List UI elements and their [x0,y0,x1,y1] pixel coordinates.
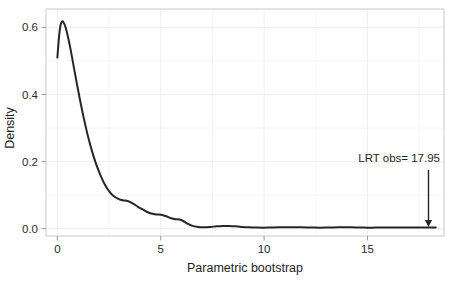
x-axis-tick-labels: 051015 [54,243,374,255]
plot-panel-background [46,9,444,236]
y-tick-label: 0.6 [22,21,38,33]
y-axis-tick-marks [42,27,47,228]
y-axis-title: Density [3,106,17,148]
x-axis-title: Parametric bootstrap [187,261,303,275]
x-tick-label: 0 [54,243,60,255]
y-tick-label: 0.0 [22,223,38,235]
y-tick-label: 0.4 [22,89,39,101]
lrt-observed-label: LRT obs= 17.95 [358,152,440,164]
y-axis-tick-labels: 0.00.20.40.6 [22,21,39,234]
x-tick-label: 10 [258,243,271,255]
x-tick-label: 15 [361,243,374,255]
y-tick-label: 0.2 [22,156,38,168]
chart-container: 051015 0.00.20.40.6 LRT obs= 17.95 Param… [0,0,457,284]
x-axis-tick-marks [57,236,367,241]
x-tick-label: 5 [158,243,164,255]
density-plot: 051015 0.00.20.40.6 LRT obs= 17.95 Param… [0,0,457,284]
